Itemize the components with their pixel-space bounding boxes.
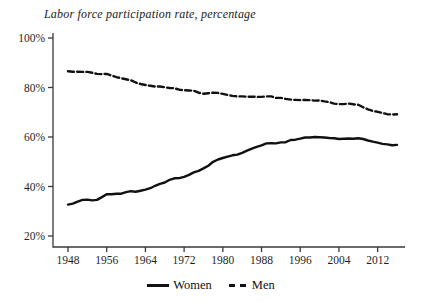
- axes: [53, 33, 405, 247]
- men-dashed-line-icon: [228, 282, 249, 289]
- y-tick-label: 80%: [24, 82, 46, 94]
- x-tick-label: 1964: [134, 254, 157, 266]
- series-line-men: [68, 71, 397, 114]
- legend-item-men: Men: [228, 278, 275, 293]
- legend-label-women: Women: [173, 278, 212, 293]
- x-tick-label: 1988: [250, 254, 273, 266]
- x-tick-label: 2004: [327, 254, 350, 266]
- x-tick-label: 1956: [95, 254, 118, 266]
- legend-item-women: Women: [146, 278, 212, 293]
- legend-label-men: Men: [252, 278, 275, 293]
- women-solid-line-icon: [146, 282, 170, 289]
- series-line-women: [68, 137, 397, 205]
- x-tick-label: 1948: [57, 254, 80, 266]
- x-tick-label: 1980: [211, 254, 234, 266]
- y-tick-label: 20%: [24, 230, 46, 242]
- x-tick-label: 1996: [289, 254, 312, 266]
- x-tick-label: 1972: [173, 254, 196, 266]
- y-tick-label: 100%: [18, 32, 45, 44]
- chart-container: Labor force participation rate, percenta…: [0, 0, 421, 308]
- x-tick-label: 2012: [366, 254, 389, 266]
- line-plot-canvas: 100%80%60%40%20%194819561964197219801988…: [0, 0, 421, 308]
- legend: Women Men: [0, 278, 421, 293]
- y-tick-label: 40%: [24, 181, 46, 193]
- y-tick-label: 60%: [24, 131, 46, 143]
